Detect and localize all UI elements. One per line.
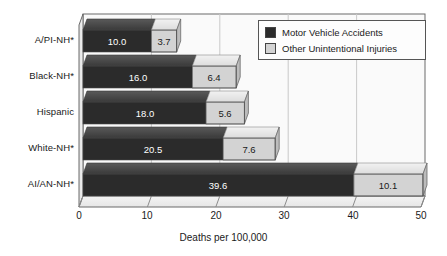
x-tick-4: 40 bbox=[347, 210, 358, 221]
x-tick-2: 20 bbox=[210, 210, 221, 221]
plot-left-wall bbox=[79, 14, 83, 207]
bar-group-a-pi-nh bbox=[83, 19, 181, 52]
x-tick-0: 0 bbox=[76, 210, 82, 221]
x-tick-1: 10 bbox=[141, 210, 152, 221]
plot-floor bbox=[79, 196, 425, 207]
legend-item-motor-vehicle-accidents: Motor Vehicle Accidents bbox=[265, 25, 383, 40]
x-axis-title: Deaths per 100,000 bbox=[0, 232, 447, 243]
x-tick-3: 30 bbox=[278, 210, 289, 221]
bar-group-hispanic bbox=[83, 91, 248, 124]
legend-item-other-unintentional-injuries: Other Unintentional Injuries bbox=[265, 41, 397, 56]
legend-swatch-dark-icon bbox=[265, 27, 276, 38]
bar-chart: A/PI-NH* Black-NH* Hispanic White-NH* AI… bbox=[0, 0, 447, 256]
legend-swatch-light-icon bbox=[265, 43, 276, 54]
bar-group-white-nh bbox=[83, 127, 279, 160]
chart-legend: Motor Vehicle Accidents Other Unintentio… bbox=[258, 20, 426, 60]
bar-group-black-nh bbox=[83, 55, 240, 88]
bar-group-ai-an-nh bbox=[83, 163, 427, 196]
legend-label-0: Motor Vehicle Accidents bbox=[282, 27, 383, 38]
legend-label-1: Other Unintentional Injuries bbox=[282, 43, 397, 54]
x-tick-5: 50 bbox=[415, 210, 426, 221]
